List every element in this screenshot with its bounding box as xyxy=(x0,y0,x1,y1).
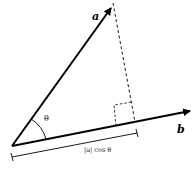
angle-theta-label: θ xyxy=(44,114,49,123)
projection-bracket-line xyxy=(12,133,137,157)
vector-a-arrow xyxy=(12,8,111,146)
perpendicular-dashed-line xyxy=(113,3,135,122)
vector-a-label: a xyxy=(92,10,99,23)
vector-b-label: b xyxy=(177,123,185,136)
projection-label: |a| cos θ xyxy=(84,146,111,154)
vector-projection-diagram: a b θ |a| cos θ xyxy=(0,0,195,172)
vector-b-arrow xyxy=(12,111,190,146)
